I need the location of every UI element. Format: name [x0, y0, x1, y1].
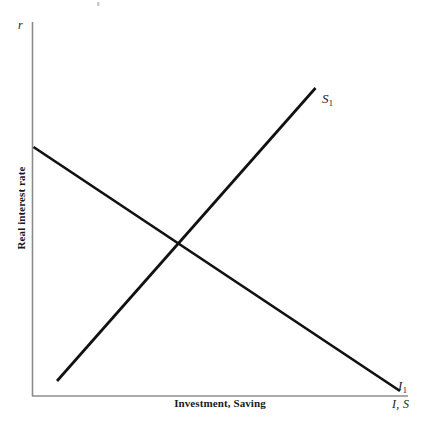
x-axis-symbol: I, S	[392, 398, 409, 410]
saving-curve-label: S1	[322, 92, 333, 105]
saving-curve-label-base: S	[322, 91, 329, 106]
x-axis-title: Investment, Saving	[174, 398, 266, 409]
y-axis-symbol: r	[18, 19, 23, 31]
chart-figure: r Real interest rate Investment, Saving …	[0, 0, 425, 424]
scan-artifact	[97, 2, 100, 6]
investment-curve-label-subscript: 1	[403, 385, 407, 395]
investment-curve-label-base: I	[398, 378, 402, 393]
loanable-funds-plot	[0, 0, 425, 424]
investment-curve-label: I1	[398, 379, 407, 392]
investment-curve	[34, 147, 401, 391]
saving-curve-label-subscript: 1	[329, 98, 333, 108]
saving-curve	[57, 88, 316, 381]
y-axis-title: Real interest rate	[16, 167, 27, 250]
